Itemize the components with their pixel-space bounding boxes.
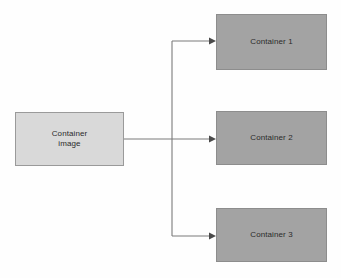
node-container-image-label: Container image: [52, 129, 88, 149]
node-container-2[interactable]: Container 2: [216, 111, 327, 165]
node-container-3-label: Container 3: [250, 230, 292, 240]
arrow-head-container-1: [209, 38, 216, 45]
arrow-head-container-3: [209, 233, 216, 240]
node-container-2-label: Container 2: [250, 133, 292, 143]
node-container-1-label: Container 1: [250, 37, 292, 47]
arrow-head-container-2: [209, 136, 216, 143]
node-container-1[interactable]: Container 1: [216, 14, 327, 70]
node-container-3[interactable]: Container 3: [216, 208, 327, 262]
node-container-image[interactable]: Container image: [15, 112, 124, 166]
diagram-canvas: Container image Container 1 Container 2 …: [0, 0, 341, 278]
